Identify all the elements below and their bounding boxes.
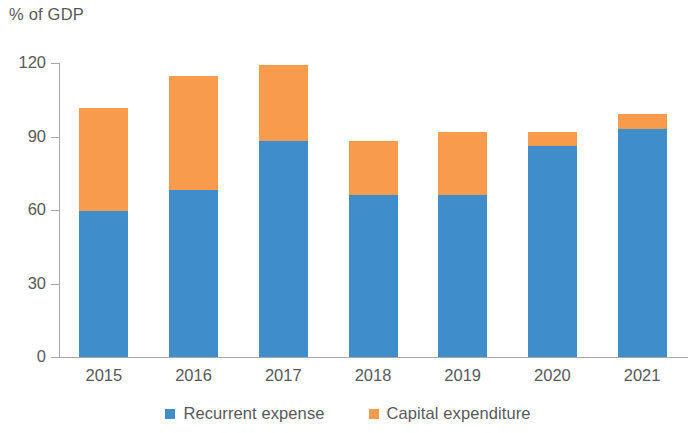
y-axis-title: % of GDP	[9, 5, 84, 24]
y-tick-label: 90	[0, 128, 46, 145]
plot-area	[59, 63, 687, 357]
legend-label: Capital expenditure	[387, 404, 531, 423]
x-tick-label-2021: 2021	[597, 366, 687, 384]
bar-2019	[438, 132, 487, 357]
bar-segment-capital-expenditure	[618, 114, 667, 129]
y-tick-label: 30	[0, 275, 46, 292]
y-tick-mark	[51, 357, 59, 358]
legend-label: Recurrent expense	[183, 404, 324, 423]
bar-segment-capital-expenditure	[259, 65, 308, 141]
x-tick-label-2020: 2020	[508, 366, 598, 384]
stacked-bar-chart: % of GDP 0306090120 20152016201720182019…	[0, 0, 696, 433]
bar-segment-recurrent-expense	[618, 129, 667, 357]
bar-2016	[169, 76, 218, 357]
square-swatch-orange-icon	[369, 409, 379, 419]
bar-segment-recurrent-expense	[438, 195, 487, 357]
y-tick-label: 120	[0, 54, 46, 71]
bar-segment-recurrent-expense	[528, 146, 577, 357]
bar-segment-recurrent-expense	[259, 141, 308, 357]
bar-2021	[618, 114, 667, 357]
bar-segment-recurrent-expense	[79, 211, 128, 357]
y-tick-label: 60	[0, 201, 46, 218]
y-tick-mark	[51, 137, 59, 138]
x-tick-label-2018: 2018	[328, 366, 418, 384]
x-tick-label-2019: 2019	[418, 366, 508, 384]
legend-item-capital-expenditure[interactable]: Capital expenditure	[369, 404, 531, 423]
bar-segment-capital-expenditure	[528, 132, 577, 147]
bar-segment-recurrent-expense	[169, 190, 218, 357]
legend-item-recurrent-expense[interactable]: Recurrent expense	[165, 404, 324, 423]
x-tick-label-2015: 2015	[59, 366, 149, 384]
x-tick-label-2016: 2016	[149, 366, 239, 384]
bar-segment-capital-expenditure	[79, 108, 128, 211]
y-tick-mark	[51, 284, 59, 285]
bar-2015	[79, 108, 128, 357]
y-tick-mark	[51, 63, 59, 64]
y-tick-mark	[51, 210, 59, 211]
square-swatch-blue-icon	[165, 409, 175, 419]
bar-segment-recurrent-expense	[349, 195, 398, 357]
bar-2017	[259, 65, 308, 357]
bar-segment-capital-expenditure	[438, 132, 487, 196]
bar-segment-capital-expenditure	[349, 141, 398, 195]
chart-legend: Recurrent expenseCapital expenditure	[0, 404, 696, 423]
bar-segment-capital-expenditure	[169, 76, 218, 190]
x-axis-line	[59, 357, 688, 358]
bar-2020	[528, 132, 577, 357]
bar-2018	[349, 141, 398, 357]
y-tick-label: 0	[0, 348, 46, 365]
x-tick-label-2017: 2017	[238, 366, 328, 384]
